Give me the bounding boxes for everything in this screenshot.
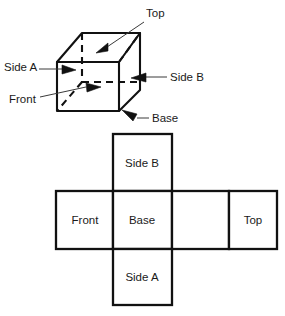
cube-label-front: Front bbox=[9, 93, 37, 105]
cube-label-side-b: Side B bbox=[170, 71, 204, 83]
leader-line-front bbox=[40, 87, 86, 97]
net-label-front: Front bbox=[72, 214, 100, 226]
arrow-base bbox=[122, 110, 137, 121]
hidden-edge-back-bottom-to-front-bottom bbox=[57, 82, 82, 111]
net-cell-blank bbox=[172, 191, 229, 249]
cube-label-top: Top bbox=[146, 7, 165, 19]
cube-leader-lines bbox=[39, 22, 167, 121]
cube-label-side-a: Side A bbox=[4, 61, 38, 73]
arrow-front bbox=[86, 83, 101, 92]
net-label-base: Base bbox=[129, 214, 155, 226]
net-label-side-a: Side A bbox=[125, 271, 159, 283]
cube-and-net-figure: Top Side A Side B Front Base Side B Fron… bbox=[0, 0, 285, 316]
cube-label-base: Base bbox=[152, 112, 178, 124]
cube-perspective-diagram: Top Side A Side B Front Base bbox=[4, 7, 204, 124]
net-label-top: Top bbox=[244, 214, 263, 226]
cube-right-face bbox=[119, 33, 140, 111]
net-label-side-b: Side B bbox=[125, 157, 159, 169]
arrow-side-a bbox=[62, 65, 76, 74]
cube-top-face bbox=[57, 33, 140, 62]
cube-net-diagram: Side B Front Base Top Side A bbox=[56, 134, 277, 305]
arrow-top bbox=[96, 43, 108, 53]
arrow-side-b bbox=[131, 73, 146, 82]
